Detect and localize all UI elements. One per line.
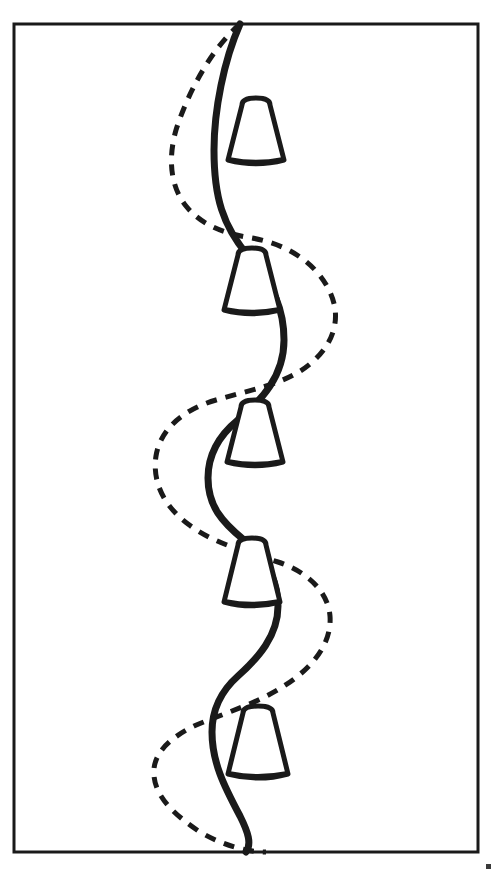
figure-root: Line drawing of two interwoven vertical … <box>0 0 497 876</box>
corner-ink-mark <box>486 864 491 869</box>
line-art-figure <box>0 0 497 876</box>
